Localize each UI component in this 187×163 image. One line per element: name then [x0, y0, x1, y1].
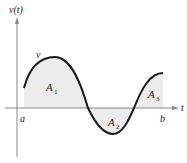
- svg-text:A: A: [107, 116, 115, 128]
- x-axis-label: t: [181, 102, 184, 113]
- svg-text:2: 2: [116, 123, 120, 131]
- area-diagram: v(t) t v a b A 1 A 2 A 3: [0, 0, 187, 163]
- y-axis-arrow-icon: [15, 17, 19, 24]
- svg-text:A: A: [147, 88, 155, 100]
- y-axis-label: v(t): [9, 4, 24, 16]
- right-bound-label: b: [160, 113, 165, 124]
- svg-text:1: 1: [54, 88, 58, 96]
- svg-text:3: 3: [156, 95, 160, 103]
- left-bound-label: a: [20, 113, 25, 124]
- curve-label: v: [36, 49, 41, 60]
- svg-text:A: A: [45, 81, 53, 93]
- x-axis-arrow-icon: [172, 106, 179, 110]
